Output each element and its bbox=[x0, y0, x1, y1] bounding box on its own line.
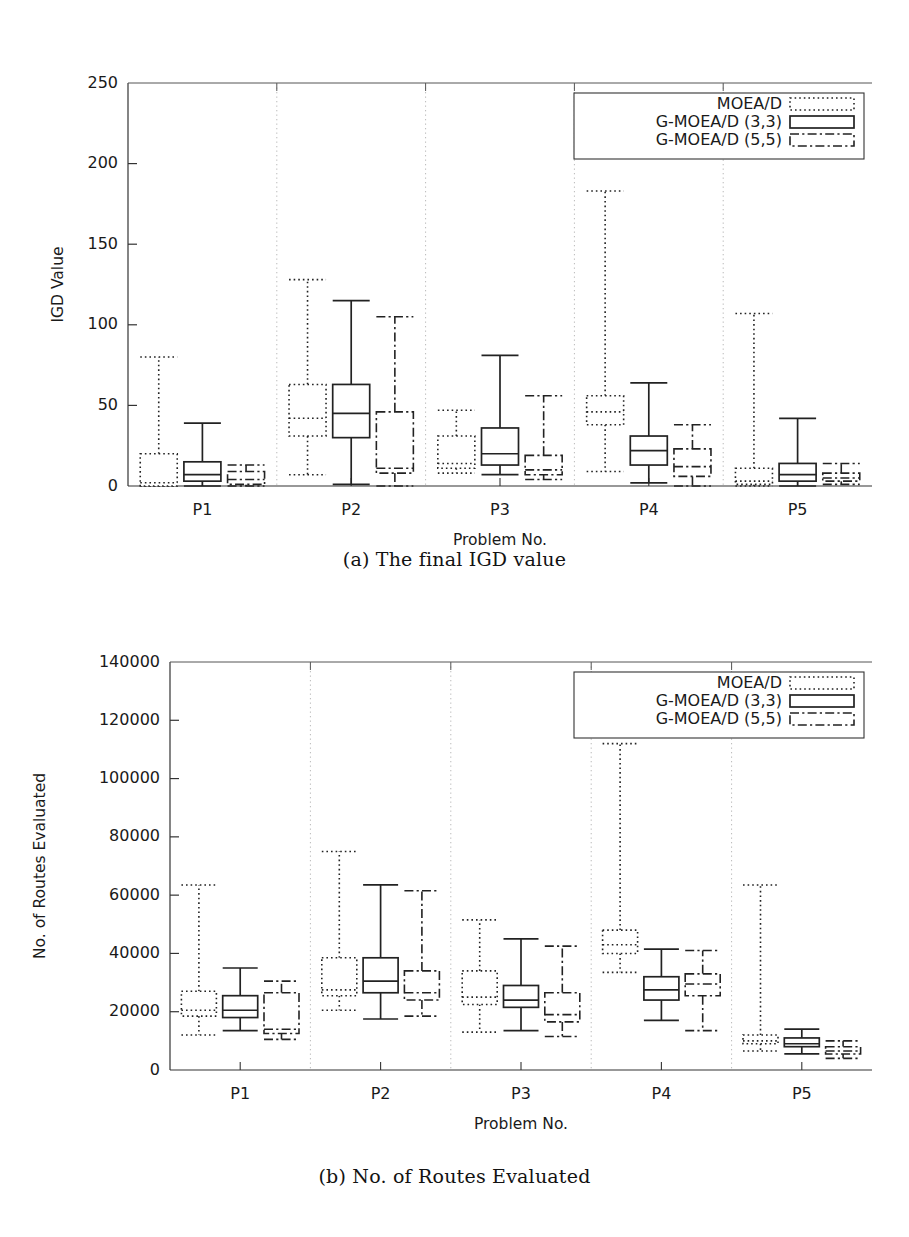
box-plot-g-moea-d-5-5- bbox=[674, 425, 711, 486]
box-plot-moea-d bbox=[181, 885, 216, 1035]
y-tick-label: 80000 bbox=[109, 826, 160, 845]
y-tick-label: 150 bbox=[87, 234, 118, 253]
y-axis-title: IGD Value bbox=[49, 246, 67, 322]
x-tick-label: P3 bbox=[511, 1084, 531, 1103]
box-plot-moea-d bbox=[587, 191, 624, 471]
box-plot-g-moea-d-3-3- bbox=[784, 1029, 819, 1054]
figure-boxplots: 050100150200250P1P2P3P4P5Problem No.IGD … bbox=[0, 0, 909, 1237]
x-tick-label: P5 bbox=[792, 1084, 812, 1103]
box-plot-g-moea-d-5-5- bbox=[685, 951, 720, 1031]
box-plot-g-moea-d-3-3- bbox=[333, 301, 370, 485]
legend: MOEA/DG-MOEA/D (3,3)G-MOEA/D (5,5) bbox=[574, 672, 864, 738]
legend-label: G-MOEA/D (5,5) bbox=[656, 130, 782, 149]
y-tick-label: 140000 bbox=[99, 652, 160, 671]
y-tick-label: 250 bbox=[87, 73, 118, 92]
x-tick-label: P2 bbox=[341, 500, 361, 519]
box-plot-g-moea-d-3-3- bbox=[504, 939, 539, 1031]
x-tick-label: P2 bbox=[371, 1084, 391, 1103]
box-plot-g-moea-d-3-3- bbox=[482, 355, 519, 474]
panel-a-igd-value: 050100150200250P1P2P3P4P5Problem No.IGD … bbox=[0, 0, 909, 610]
y-axis-title: No. of Routes Evaluated bbox=[31, 773, 49, 959]
box-plot-moea-d bbox=[743, 885, 778, 1051]
y-tick-label: 40000 bbox=[109, 943, 160, 962]
box-plot-g-moea-d-5-5- bbox=[823, 463, 860, 484]
box-plot-moea-d bbox=[140, 357, 177, 486]
legend-label: MOEA/D bbox=[717, 94, 782, 113]
box-plot-moea-d bbox=[322, 851, 357, 1010]
box-plot-g-moea-d-5-5- bbox=[525, 396, 562, 480]
box-plot-g-moea-d-3-3- bbox=[644, 949, 679, 1020]
x-tick-label: P1 bbox=[230, 1084, 250, 1103]
y-tick-label: 50 bbox=[98, 395, 118, 414]
box-plot-moea-d bbox=[438, 410, 475, 473]
box-plot-g-moea-d-3-3- bbox=[630, 383, 667, 483]
x-tick-label: P5 bbox=[788, 500, 808, 519]
x-tick-label: P4 bbox=[639, 500, 659, 519]
box-plot-g-moea-d-5-5- bbox=[376, 317, 413, 486]
box-plot-moea-d bbox=[603, 744, 638, 973]
box-plot-g-moea-d-3-3- bbox=[779, 418, 816, 486]
box-plot-moea-d bbox=[289, 280, 326, 475]
chart-b-svg: 020000400006000080000100000120000140000P… bbox=[0, 610, 909, 1170]
caption-a: (a) The final IGD value bbox=[0, 548, 909, 570]
box-plot-g-moea-d-5-5- bbox=[404, 891, 439, 1016]
box-plot-g-moea-d-3-3- bbox=[184, 423, 221, 486]
box-plot-g-moea-d-3-3- bbox=[363, 885, 398, 1019]
panel-b-routes-evaluated: 020000400006000080000100000120000140000P… bbox=[0, 610, 909, 1237]
box-plot-moea-d bbox=[735, 314, 772, 486]
legend-label: MOEA/D bbox=[717, 673, 782, 692]
legend-label: G-MOEA/D (3,3) bbox=[656, 691, 782, 710]
box-plot-g-moea-d-5-5- bbox=[264, 981, 299, 1039]
x-axis-title: Problem No. bbox=[453, 531, 547, 549]
y-tick-label: 100000 bbox=[99, 768, 160, 787]
box-plot-g-moea-d-5-5- bbox=[545, 946, 580, 1036]
y-tick-label: 200 bbox=[87, 153, 118, 172]
box-plot-g-moea-d-3-3- bbox=[223, 968, 258, 1031]
y-tick-label: 0 bbox=[108, 476, 118, 495]
y-tick-label: 0 bbox=[150, 1060, 160, 1079]
x-tick-label: P4 bbox=[651, 1084, 671, 1103]
y-tick-label: 20000 bbox=[109, 1001, 160, 1020]
legend-label: G-MOEA/D (5,5) bbox=[656, 709, 782, 728]
y-tick-label: 100 bbox=[87, 314, 118, 333]
box-plot-moea-d bbox=[462, 920, 497, 1032]
chart-a-svg: 050100150200250P1P2P3P4P5Problem No.IGD … bbox=[0, 0, 909, 560]
box-plot-g-moea-d-5-5- bbox=[826, 1041, 861, 1058]
legend-label: G-MOEA/D (3,3) bbox=[656, 112, 782, 131]
legend: MOEA/DG-MOEA/D (3,3)G-MOEA/D (5,5) bbox=[574, 93, 864, 159]
y-tick-label: 60000 bbox=[109, 885, 160, 904]
caption-b: (b) No. of Routes Evaluated bbox=[0, 1165, 909, 1187]
x-tick-label: P3 bbox=[490, 500, 510, 519]
x-tick-label: P1 bbox=[192, 500, 212, 519]
y-tick-label: 120000 bbox=[99, 710, 160, 729]
box-plot-g-moea-d-5-5- bbox=[228, 465, 265, 486]
x-axis-title: Problem No. bbox=[474, 1115, 568, 1133]
